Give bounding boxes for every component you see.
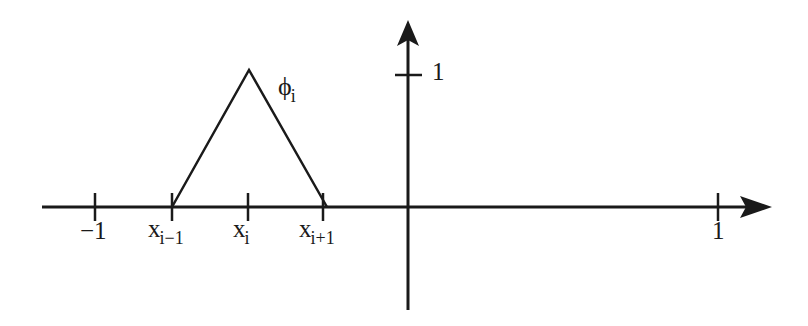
y-tick-label-one: 1: [432, 59, 445, 84]
x-tick-label-one: 1: [712, 218, 725, 243]
x-tick-label-x-i-minus-1: xi−1: [148, 216, 185, 241]
x-tick-label-minus-one: −1: [80, 218, 107, 243]
x-tick-label-x-i: xi: [233, 216, 251, 241]
hat-function-label: ϕi: [278, 74, 297, 100]
diagram-svg: [0, 0, 808, 326]
x-tick-label-x-i-plus-1: xi+1: [299, 216, 336, 241]
hat-function-curve: [172, 70, 327, 207]
figure-canvas: −1 xi−1 xi xi+1 1 1 ϕi: [0, 0, 808, 326]
